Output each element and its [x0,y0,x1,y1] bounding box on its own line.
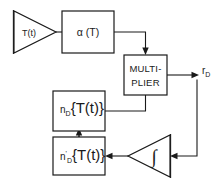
nd-prime-block-label-argument: {T(t)} [72,146,105,163]
edge-integrator-to-nd-prime [105,153,128,159]
edge-alpha-to-multiplier [114,32,149,55]
integrator-block[interactable]: ∫ [128,134,171,178]
multiplier-block[interactable]: MULTI- PLIER [124,55,167,95]
output-rd-label: rD [202,65,210,78]
block-diagram-svg: T(t) α (T) MULTI- PLIER nD{T(t)} n'D{T(t… [0,0,221,181]
nd-block[interactable]: nD{T(t)} [53,91,105,131]
alpha-block-label: α (T) [77,26,99,38]
alpha-block[interactable]: α (T) [62,11,114,53]
integrator-triangle [128,135,170,177]
output-rd-text: rD [202,65,210,78]
multiplier-block-label-line1: MULTI- [129,63,161,74]
input-amplifier-label: T(t) [22,28,36,38]
multiplier-block-rect [124,55,167,95]
edge-nd-to-multiplier [105,95,146,111]
arrowhead-into-nd-prime [105,153,113,159]
input-amplifier-block[interactable]: T(t) [13,10,56,54]
nd-prime-block-label-prime: ' [66,150,67,157]
edge-multiplier-to-output [167,72,199,78]
nd-prime-block[interactable]: n'D{T(t)} [53,137,105,175]
arrowhead-into-output-rd [192,72,200,78]
block-diagram-canvas: T(t) α (T) MULTI- PLIER nD{T(t)} n'D{T(t… [0,0,221,181]
edge-output-to-integrator [170,80,197,159]
multiplier-block-label-line2: PLIER [131,77,159,88]
output-rd-subscript: D [205,71,210,78]
arrowhead-into-multiplier-top [142,48,148,56]
nd-block-label-argument: {T(t)} [71,99,104,116]
